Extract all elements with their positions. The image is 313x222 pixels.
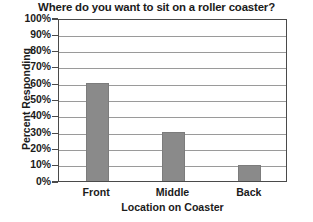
gridline xyxy=(59,68,286,69)
y-axis-tick-mark xyxy=(52,116,58,117)
y-axis-tick-label: 10% xyxy=(30,160,51,170)
y-axis-tick-label: 30% xyxy=(30,128,51,138)
bar-back xyxy=(238,165,261,181)
y-axis-tick-label: 100% xyxy=(24,14,51,24)
x-axis-tick-label: Middle xyxy=(133,186,213,198)
bar-front xyxy=(86,83,109,181)
y-axis-tick-label: 0% xyxy=(36,177,51,187)
y-axis-tick-mark xyxy=(52,18,58,19)
x-axis-title: Location on Coaster xyxy=(58,201,287,213)
y-axis-tick-label: 60% xyxy=(30,79,51,89)
y-axis-tick-mark xyxy=(52,51,58,52)
x-axis-tick-label: Front xyxy=(56,186,136,198)
y-axis-tick-mark xyxy=(52,133,58,134)
plot-area xyxy=(58,19,287,182)
y-axis-tick-label: 20% xyxy=(30,144,51,154)
y-axis-tick-label: 50% xyxy=(30,95,51,105)
y-axis-tick-label: 80% xyxy=(30,46,51,56)
y-axis-tick-labels: 100%90%80%70%60%50%40%30%20%10%0% xyxy=(0,0,55,222)
y-axis-tick-mark xyxy=(52,84,58,85)
y-axis-tick-label: 90% xyxy=(30,30,51,40)
y-axis-tick-mark xyxy=(52,35,58,36)
y-axis-tick-mark xyxy=(52,165,58,166)
gridline xyxy=(59,52,286,53)
y-axis-tick-label: 70% xyxy=(30,62,51,72)
y-axis-tick-label: 40% xyxy=(30,111,51,121)
y-axis-tick-mark xyxy=(52,181,58,182)
y-axis-tick-mark xyxy=(52,100,58,101)
bar-chart: Where do you want to sit on a roller coa… xyxy=(0,0,313,222)
y-axis-tick-mark xyxy=(52,67,58,68)
x-axis-tick-label: Back xyxy=(209,186,289,198)
y-axis-tick-mark xyxy=(52,149,58,150)
bar-middle xyxy=(162,132,185,181)
gridline xyxy=(59,36,286,37)
